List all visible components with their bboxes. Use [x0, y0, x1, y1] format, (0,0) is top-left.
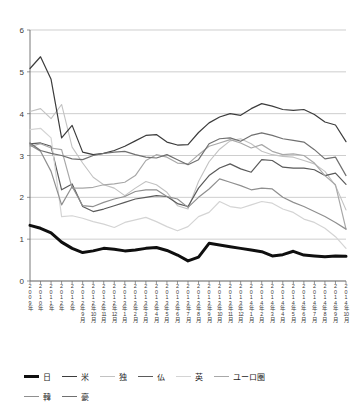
x-axis-tick-label: 2013年7月 [183, 284, 193, 323]
legend-item-豪[interactable]: 豪 [62, 391, 89, 402]
legend-label: 豪 [81, 391, 89, 402]
legend-swatch-icon [24, 396, 39, 397]
legend-row: 韓豪 [24, 386, 334, 406]
series-line-米 [30, 57, 346, 155]
x-axis-tick-label: 2013年9月 [204, 284, 214, 323]
series-line-日 [30, 225, 346, 261]
x-axis-tick-label: 2012年 [57, 284, 67, 312]
x-axis-tick-label: 2014年6月 [299, 284, 309, 323]
x-axis-tick-label: 2013年5月 [162, 284, 172, 323]
legend-item-日[interactable]: 日 [24, 371, 51, 382]
x-axis-tick-label: 2013年12月 [236, 284, 246, 323]
legend-item-英[interactable]: 英 [176, 371, 203, 382]
y-axis-tick-label: 3 [20, 152, 25, 161]
legend-row: 日米独仏英ユーロ圏 [24, 366, 334, 386]
x-axis-tick-label: 2013年10月 [215, 284, 225, 323]
legend-item-米[interactable]: 米 [62, 371, 89, 382]
plot-area: 0123456 [0, 0, 354, 300]
legend-item-仏[interactable]: 仏 [138, 371, 165, 382]
legend-item-独[interactable]: 独 [100, 371, 127, 382]
legend-label: 米 [81, 371, 89, 382]
x-axis-tick-label: 2009年 [25, 284, 35, 312]
legend-swatch-icon [176, 376, 191, 377]
legend-swatch-icon [62, 376, 77, 377]
legend-label: ユーロ圏 [233, 371, 265, 382]
legend-label: 仏 [157, 371, 165, 382]
x-axis-tick-labels: 2009年2010年2011年2012年2013年2012年9月2012年10月… [30, 284, 346, 350]
legend-swatch-icon [214, 376, 229, 377]
y-axis-tick-label: 6 [20, 26, 25, 35]
y-axis-tick-label: 0 [20, 277, 25, 286]
legend-swatch-icon [138, 376, 153, 377]
x-axis-tick-label: 2011年 [46, 284, 56, 312]
x-axis-tick-label: 2013年3月 [141, 284, 151, 323]
x-axis-tick-label: 2013年 [67, 284, 77, 312]
legend-swatch-icon [62, 396, 77, 397]
chart-legend: 日米独仏英ユーロ圏韓豪 [24, 366, 334, 406]
legend-label: 英 [195, 371, 203, 382]
y-axis-tick-label: 4 [20, 110, 25, 119]
x-axis-tick-label: 2013年11月 [225, 284, 235, 323]
x-axis-tick-label: 2014年10月 [341, 284, 351, 323]
x-axis-tick-label: 2014年1月 [246, 284, 256, 323]
legend-item-ユーロ圏[interactable]: ユーロ圏 [214, 371, 265, 382]
line-chart-svg: 0123456 [0, 0, 354, 300]
x-axis-tick-label: 2014年9月 [330, 284, 340, 323]
x-axis-tick-label: 2014年2月 [257, 284, 267, 323]
legend-label: 日 [43, 371, 51, 382]
x-axis-tick-label: 2014年3月 [267, 284, 277, 323]
legend-label: 独 [119, 371, 127, 382]
x-axis-tick-label: 2014年8月 [320, 284, 330, 323]
x-axis-tick-label: 2013年2月 [130, 284, 140, 323]
chart-root: 0123456 2009年2010年2011年2012年2013年2012年9月… [0, 0, 354, 416]
legend-label: 韓 [43, 391, 51, 402]
x-axis-tick-label: 2012年9月 [78, 284, 88, 323]
y-axis-tick-label: 2 [20, 193, 25, 202]
x-axis-tick-label: 2013年6月 [172, 284, 182, 323]
legend-swatch-icon [100, 376, 115, 377]
y-axis-tick-label: 5 [20, 68, 25, 77]
legend-item-韓[interactable]: 韓 [24, 391, 51, 402]
legend-swatch-icon [24, 375, 39, 378]
x-axis-tick-label: 2013年4月 [151, 284, 161, 323]
x-axis-tick-label: 2014年5月 [288, 284, 298, 323]
x-axis-tick-label: 2012年12月 [109, 284, 119, 323]
x-axis-tick-label: 2010年 [36, 284, 46, 312]
x-axis-tick-label: 2014年4月 [278, 284, 288, 323]
series-line-仏 [30, 143, 346, 212]
x-axis-tick-label: 2014年7月 [309, 284, 319, 323]
y-axis-tick-label: 1 [20, 235, 25, 244]
x-axis-tick-label: 2013年8月 [194, 284, 204, 323]
x-axis-tick-label: 2012年10月 [88, 284, 98, 323]
x-axis-tick-label: 2012年11月 [99, 284, 109, 323]
x-axis-tick-label: 2013年1月 [120, 284, 130, 323]
